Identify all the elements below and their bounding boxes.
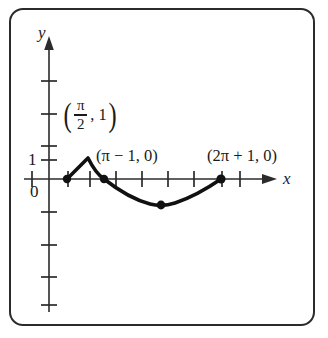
x-axis-label: x — [283, 170, 291, 187]
cusp-y-value: , 1 — [90, 107, 107, 124]
y-axis-label: y — [38, 24, 46, 41]
annotation-cusp-point: ( π 2 , 1 ) — [62, 98, 118, 132]
cusp-open-paren: ( — [64, 98, 72, 132]
point-minimum — [157, 201, 166, 210]
annotation-pi-minus-1: (π − 1, 0) — [96, 148, 158, 165]
point-2pi-plus-1 — [216, 174, 225, 183]
annotation-2pi-plus-1: (2π + 1, 0) — [207, 148, 277, 165]
point-left-endpoint — [63, 175, 71, 183]
graph-canvas — [0, 0, 328, 338]
y-tick-label-one: 1 — [28, 151, 37, 168]
origin-label-zero: 0 — [30, 183, 39, 200]
cusp-fraction-denominator: 2 — [77, 116, 85, 132]
x-axis-arrowhead — [262, 174, 277, 184]
cusp-fraction-numerator: π — [77, 98, 85, 114]
point-pi-minus-1 — [100, 175, 108, 183]
figure-root: y x 1 0 (π − 1, 0) (2π + 1, 0) ( π 2 , 1… — [0, 0, 328, 338]
cusp-close-paren: ) — [108, 98, 116, 132]
cusp-fraction: π 2 — [74, 98, 87, 132]
